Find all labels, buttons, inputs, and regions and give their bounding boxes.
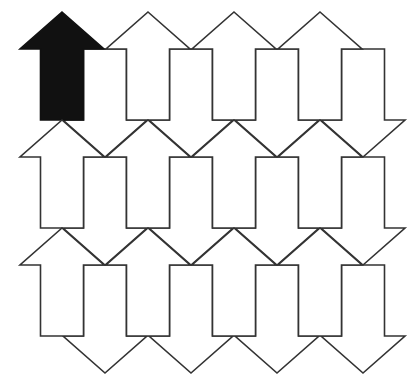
tessellation-svg xyxy=(0,0,415,382)
arrow-tessellation-diagram xyxy=(0,0,415,382)
